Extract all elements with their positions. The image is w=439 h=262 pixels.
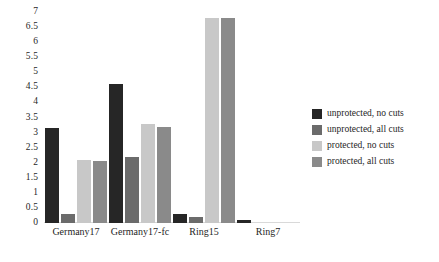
x-axis-category-label: Germany17-fc: [108, 226, 172, 246]
bar[interactable]: [77, 160, 91, 223]
y-axis-tick-label: 4: [33, 98, 38, 108]
bar[interactable]: [221, 18, 235, 223]
y-axis-tick-label: 5.5: [26, 52, 38, 62]
plot-area: [44, 12, 300, 223]
bar[interactable]: [157, 127, 171, 223]
y-axis-tick-label: 6.5: [26, 22, 38, 32]
y-axis-tick-label: 3.5: [26, 113, 38, 123]
bar[interactable]: [93, 161, 107, 223]
x-axis-category-label: Ring7: [236, 226, 300, 246]
bar[interactable]: [109, 84, 123, 223]
legend-item-label: unprotected, all cuts: [327, 125, 404, 135]
legend-item[interactable]: protected, no cuts: [312, 138, 436, 153]
legend-item[interactable]: unprotected, all cuts: [312, 122, 436, 137]
bar[interactable]: [189, 217, 203, 223]
bar-chart: 76.565.554.543.532.521.510.50 Germany17G…: [0, 0, 439, 262]
bar[interactable]: [45, 128, 59, 223]
bar-group: [44, 12, 108, 223]
y-axis-tick-label: 7: [33, 7, 38, 17]
bar[interactable]: [61, 214, 75, 223]
legend-item-label: protected, no cuts: [327, 141, 394, 151]
bar-groups: [44, 12, 300, 223]
y-axis: 76.565.554.543.532.521.510.50: [0, 12, 42, 223]
legend-swatch-icon: [312, 157, 322, 167]
legend-item-label: protected, all cuts: [327, 157, 394, 167]
bar[interactable]: [141, 124, 155, 223]
x-axis: Germany17Germany17-fcRing15Ring7: [44, 226, 300, 246]
legend-swatch-icon: [312, 125, 322, 135]
legend-item[interactable]: unprotected, no cuts: [312, 106, 436, 121]
y-axis-tick-label: 5: [33, 68, 38, 78]
legend-swatch-icon: [312, 141, 322, 151]
bar[interactable]: [237, 220, 251, 223]
y-axis-tick-label: 6: [33, 37, 38, 47]
bar[interactable]: [205, 18, 219, 223]
y-axis-tick-label: 0.5: [26, 203, 38, 213]
y-axis-tick-label: 1: [33, 188, 38, 198]
x-axis-category-label: Ring15: [172, 226, 236, 246]
x-axis-category-label: Germany17: [44, 226, 108, 246]
bar-group: [172, 12, 236, 223]
legend-item-label: unprotected, no cuts: [327, 109, 404, 119]
legend-swatch-icon: [312, 109, 322, 119]
chart-legend: unprotected, no cutsunprotected, all cut…: [312, 106, 436, 170]
y-axis-tick-label: 0: [33, 218, 38, 228]
y-axis-tick-label: 2.5: [26, 143, 38, 153]
bar[interactable]: [173, 214, 187, 223]
y-axis-tick-label: 2: [33, 158, 38, 168]
legend-item[interactable]: protected, all cuts: [312, 154, 436, 169]
y-axis-tick-label: 1.5: [26, 173, 38, 183]
bar[interactable]: [125, 157, 139, 223]
y-axis-tick-label: 4.5: [26, 83, 38, 93]
y-axis-tick-label: 3: [33, 128, 38, 138]
bar-group: [108, 12, 172, 223]
bar-group: [236, 12, 300, 223]
